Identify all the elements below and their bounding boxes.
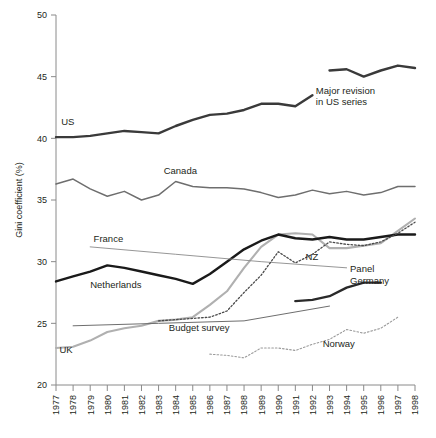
y-axis-tick-label: 45	[37, 72, 47, 82]
chart-axes	[56, 15, 415, 385]
series-label-panel: Panel	[350, 263, 374, 274]
series-label-canada: Canada	[164, 165, 198, 176]
x-axis-tick-label: 1990	[274, 395, 284, 415]
series-line-us-revised	[330, 66, 415, 77]
chart-canvas: 20253035404550Gini coefficient (%)197719…	[0, 0, 436, 438]
series-label-nz: NZ	[306, 251, 319, 262]
x-axis-tick-label: 1996	[376, 395, 386, 415]
y-axis-tick-label: 40	[37, 134, 47, 144]
series-line-norway	[210, 317, 398, 358]
x-axis-tick-label: 1992	[308, 395, 318, 415]
y-axis-tick-label: 35	[37, 195, 47, 205]
x-axis-tick-label: 1981	[120, 395, 130, 415]
series-label-us: US	[61, 116, 74, 127]
x-axis-tick-label: 1998	[410, 395, 420, 415]
x-axis-tick-label: 1988	[239, 395, 249, 415]
series-line-us	[56, 95, 312, 137]
y-axis-tick-label: 25	[37, 319, 47, 329]
x-axis-tick-label: 1985	[188, 395, 198, 415]
y-axis-tick-label: 30	[37, 257, 47, 267]
x-axis-tick-label: 1982	[137, 395, 147, 415]
x-axis-tick-label: 1989	[257, 395, 267, 415]
series-label-france: France	[94, 233, 124, 244]
x-axis-tick-label: 1980	[103, 395, 113, 415]
series-label-germany: Germany	[350, 275, 389, 286]
gini-coefficient-line-chart: 20253035404550Gini coefficient (%)197719…	[0, 0, 436, 438]
x-axis-tick-label: 1986	[205, 395, 215, 415]
x-axis-tick-label: 1987	[222, 395, 232, 415]
series-label-budget-survey: Budget survey	[169, 322, 230, 333]
series-label-uk: UK	[59, 344, 73, 355]
series-line-canada	[56, 179, 415, 200]
x-axis-tick-label: 1977	[51, 395, 61, 415]
y-axis-title: Gini coefficient (%)	[14, 162, 24, 237]
x-axis-tick-label: 1995	[359, 395, 369, 415]
series-label-netherlands: Netherlands	[90, 279, 141, 290]
x-axis-tick-label: 1983	[154, 395, 164, 415]
x-axis-tick-label: 1997	[393, 395, 403, 415]
y-axis-tick-label: 20	[37, 380, 47, 390]
x-axis-tick-label: 1994	[342, 395, 352, 415]
x-axis-tick-label: 1993	[325, 395, 335, 415]
x-axis-tick-label: 1984	[171, 395, 181, 415]
chart-annotation: Major revisionin US series	[316, 85, 375, 107]
y-axis-tick-label: 50	[37, 10, 47, 20]
x-axis-tick-label: 1978	[68, 395, 78, 415]
x-axis-tick-label: 1991	[291, 395, 301, 415]
x-axis-tick-label: 1979	[86, 395, 96, 415]
series-label-norway: Norway	[323, 338, 355, 349]
